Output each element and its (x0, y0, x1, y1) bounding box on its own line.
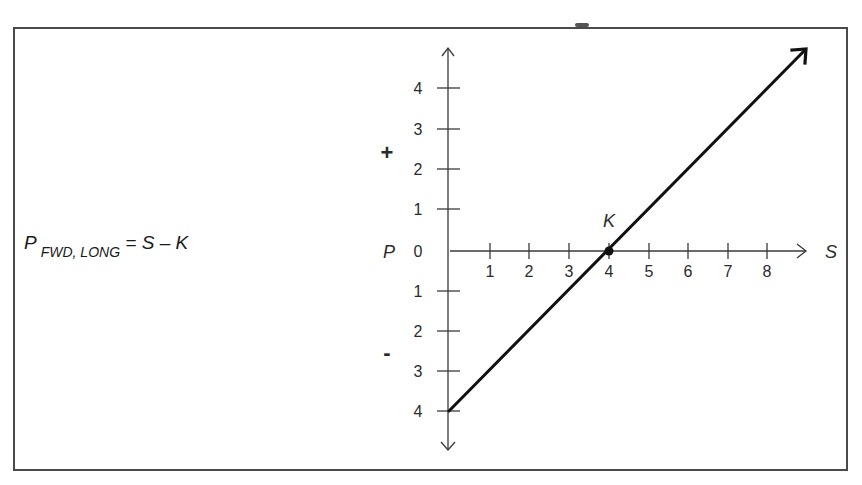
y-axis-label: P (383, 242, 395, 262)
x-tick-label: 1 (486, 263, 495, 280)
x-tick-label: 8 (763, 263, 772, 280)
x-tick-label: 5 (645, 263, 654, 280)
y-tick-labels: 4 3 2 1 0 1 2 3 4 (414, 80, 423, 420)
x-tick-labels: 1 2 3 4 5 6 7 8 (486, 263, 772, 280)
x-tick-label: 6 (684, 263, 693, 280)
y-tick-label: 2 (414, 161, 423, 178)
positive-sign-label: + (381, 140, 394, 165)
y-tick-label: 2 (414, 323, 423, 340)
x-tick-label: 7 (724, 263, 733, 280)
y-tick-label: 4 (414, 403, 423, 420)
strike-point-marker (605, 247, 614, 256)
y-tick-label: 4 (414, 80, 423, 97)
x-axis (450, 243, 806, 259)
payoff-line (449, 49, 806, 411)
payoff-chart: 4 3 2 1 0 1 2 3 4 1 2 3 4 5 6 7 8 P S + … (0, 0, 862, 485)
x-axis-label: S (825, 242, 837, 262)
y-tick-label: 3 (414, 121, 423, 138)
y-tick-label-zero: 0 (414, 243, 423, 260)
strike-label-k: K (603, 211, 616, 231)
y-axis (437, 48, 460, 450)
x-tick-label: 3 (565, 263, 574, 280)
negative-sign-label: - (383, 340, 390, 365)
x-tick-label: 4 (605, 263, 614, 280)
y-tick-label: 3 (414, 363, 423, 380)
y-tick-label: 1 (414, 283, 423, 300)
y-tick-label: 1 (414, 201, 423, 218)
x-tick-label: 2 (525, 263, 534, 280)
